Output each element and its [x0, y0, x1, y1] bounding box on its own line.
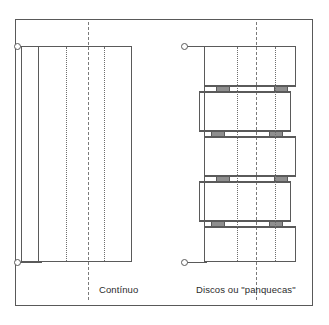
disc-5: [204, 226, 296, 262]
disc-4: [199, 181, 291, 221]
disc-2: [199, 91, 291, 131]
right-top-lead: [185, 46, 207, 47]
diagram-canvas: Contínuo: [0, 0, 329, 325]
disc-3: [204, 136, 296, 176]
right-dotted-reference-line-2: [275, 47, 276, 261]
disc-1: [204, 46, 296, 86]
right-diagram-discs: Discos ou "panquecas": [0, 0, 329, 325]
right-diagram-caption: Discos ou "panquecas": [196, 284, 296, 295]
right-top-terminal: [181, 43, 188, 50]
right-dotted-reference-line-1: [237, 47, 238, 261]
right-bottom-lead: [185, 262, 207, 263]
right-bottom-terminal: [181, 259, 188, 266]
